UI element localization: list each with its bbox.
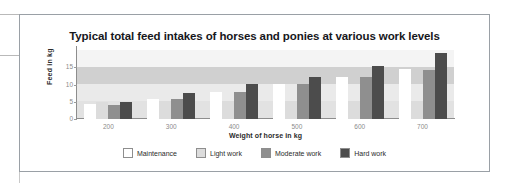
bar-group: 300 [140, 50, 203, 119]
x-tick-label: 400 [229, 123, 240, 130]
bar-hard-work[interactable] [435, 53, 447, 119]
legend-item-hard-work[interactable]: Hard work [340, 148, 386, 158]
bar-hard-work[interactable] [372, 66, 384, 119]
legend-label: Moderate work [275, 150, 321, 157]
legend-label: Maintenance [137, 150, 177, 157]
bar-hard-work[interactable] [309, 77, 321, 119]
bar-maintenance[interactable] [336, 77, 348, 119]
legend-label: Hard work [354, 150, 386, 157]
legend-item-light-work[interactable]: Light work [196, 148, 242, 158]
bar-group: 400 [203, 50, 266, 119]
bar-moderate-work[interactable] [423, 70, 435, 119]
legend-swatch [340, 148, 350, 158]
bar-light-work[interactable] [411, 101, 423, 119]
bar-group: 700 [391, 50, 454, 119]
legend-item-maintenance[interactable]: Maintenance [123, 148, 177, 158]
bar-group: 500 [265, 50, 328, 119]
x-tick-label: 300 [166, 123, 177, 130]
legend-swatch [261, 148, 271, 158]
bar-group: 600 [328, 50, 391, 119]
bar-moderate-work[interactable] [234, 92, 246, 119]
bar-groups: 200300400500600700 [77, 50, 454, 119]
bar-hard-work[interactable] [120, 102, 132, 119]
y-axis-title: Feed in kg [46, 48, 53, 85]
bar-moderate-work[interactable] [108, 105, 120, 119]
x-tick-label: 500 [291, 123, 302, 130]
bar-moderate-work[interactable] [171, 99, 183, 119]
bar-maintenance[interactable] [273, 84, 285, 119]
legend-swatch [123, 148, 133, 158]
bar-hard-work[interactable] [183, 93, 195, 119]
x-tick-label: 700 [417, 123, 428, 130]
chart-legend: MaintenanceLight workModerate workHard w… [20, 148, 489, 158]
bar-moderate-work[interactable] [360, 77, 372, 119]
chart-title: Typical total feed intakes of horses and… [20, 30, 489, 42]
x-tick-label: 600 [354, 123, 365, 130]
legend-swatch [196, 148, 206, 158]
bar-group: 200 [77, 50, 140, 119]
bar-light-work[interactable] [348, 101, 360, 119]
y-tick-label: 10 [66, 81, 73, 88]
bar-moderate-work[interactable] [297, 84, 309, 119]
bar-maintenance[interactable] [84, 104, 96, 119]
legend-label: Light work [210, 150, 242, 157]
legend-item-moderate-work[interactable]: Moderate work [261, 148, 321, 158]
bar-hard-work[interactable] [246, 84, 258, 119]
bar-light-work[interactable] [159, 101, 171, 119]
plot-area: 051015 200300400500600700 [77, 50, 454, 119]
bar-light-work[interactable] [96, 102, 108, 119]
bar-light-work[interactable] [222, 101, 234, 119]
y-tick-label: 15 [66, 64, 73, 71]
bar-maintenance[interactable] [210, 92, 222, 119]
x-axis-title: Weight of horse in kg [77, 132, 454, 139]
bar-maintenance[interactable] [147, 99, 159, 119]
x-tick-label: 200 [103, 123, 114, 130]
bar-maintenance[interactable] [399, 69, 411, 119]
bar-light-work[interactable] [285, 101, 297, 119]
chart-figure: Typical total feed intakes of horses and… [19, 14, 490, 172]
y-tick-label: 5 [69, 99, 73, 106]
y-tick-mark [74, 119, 77, 120]
y-tick-label: 0 [69, 116, 73, 123]
